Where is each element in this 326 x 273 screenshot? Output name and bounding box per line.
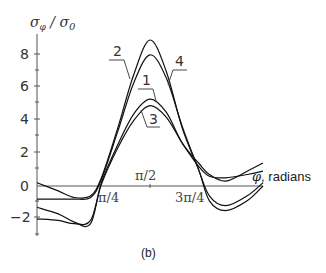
- x-tick-pi2-label: π/2: [135, 168, 156, 183]
- x-tick-3pi4-label: 3π/4: [175, 190, 204, 205]
- curve-label-4: 4: [175, 53, 184, 69]
- curve-label-1: 1: [142, 72, 151, 88]
- y-tick-6: 6: [20, 78, 29, 94]
- y-tick-8: 8: [20, 46, 29, 62]
- panel-label: (b): [141, 246, 156, 260]
- curve-label-2: 2: [113, 43, 122, 59]
- y-tick-4: 4: [20, 111, 29, 127]
- y-axis-label: σφ / σ0: [30, 14, 76, 32]
- x-tick-pi4-label: π/4: [98, 190, 119, 205]
- y-tick-0: 0: [20, 178, 29, 194]
- y-tick-minus-2: −2: [10, 209, 31, 225]
- y-tick-2: 2: [20, 144, 29, 160]
- curves: [37, 40, 263, 227]
- stress-distribution-chart: 8 6 4 2 0 −2 π/4 π/2 3π/4 σφ / σ0 φ, rad…: [0, 0, 326, 273]
- curve-4-leader: [168, 70, 187, 85]
- curve-2-leader: [109, 60, 130, 79]
- curve-label-3: 3: [149, 111, 158, 127]
